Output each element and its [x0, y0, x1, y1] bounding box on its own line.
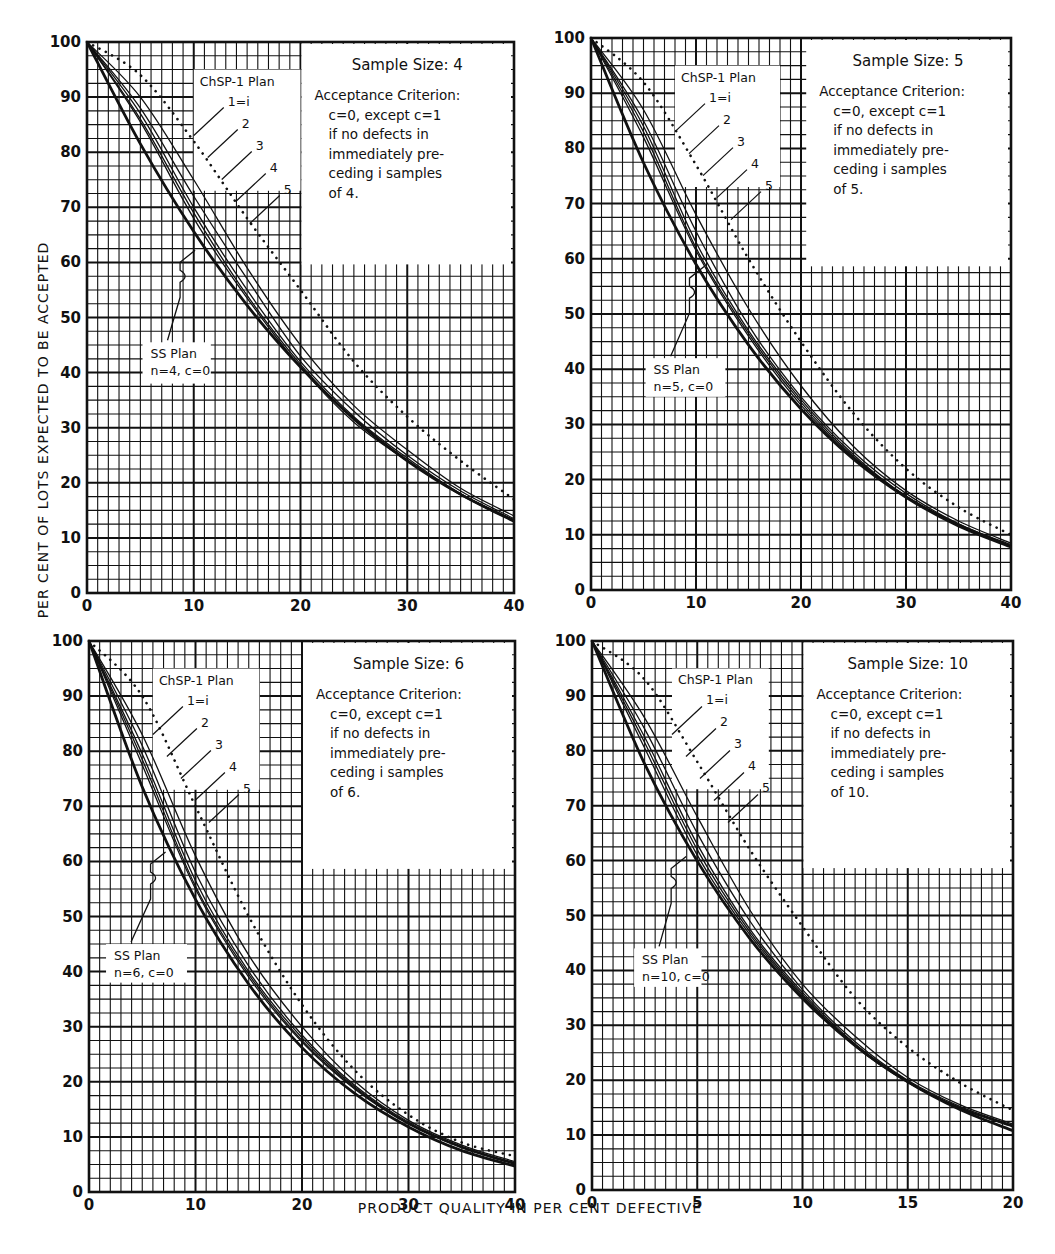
- y-axis-title: PER CENT OF LOTS EXPECTED TO BE ACCEPTED: [35, 242, 51, 619]
- x-tick-label: 40: [1001, 594, 1022, 612]
- criterion-line: ceding i samples: [330, 764, 444, 780]
- y-tick-label: 20: [564, 471, 585, 489]
- y-tick-label: 50: [564, 305, 585, 323]
- leader-line: [731, 192, 761, 220]
- x-tick-label: 30: [397, 597, 418, 615]
- legend-label-3: 3: [737, 134, 745, 149]
- y-tick-label: 10: [60, 529, 81, 547]
- x-tick-label: 10: [686, 594, 707, 612]
- y-tick-label: 0: [71, 584, 81, 602]
- y-tick-label: 20: [565, 1071, 586, 1089]
- sample-size-title: Sample Size: 4: [352, 56, 463, 74]
- y-tick-label: 70: [564, 195, 585, 213]
- legend-label-3: 3: [215, 737, 223, 752]
- y-tick-label: 10: [564, 526, 585, 544]
- legend-title: ChSP-1 Plan: [678, 672, 753, 687]
- ss-plan-label: SS Plan: [114, 948, 160, 963]
- criterion-line: of 5.: [833, 181, 863, 197]
- criterion-line: c=0, except c=1: [329, 107, 442, 123]
- legend-label-5: 5: [284, 182, 292, 197]
- ss-plan-label: SS Plan: [654, 362, 700, 377]
- legend-label-5: 5: [762, 780, 770, 795]
- criterion-line: if no defects in: [831, 725, 931, 741]
- y-tick-label: 30: [565, 1016, 586, 1034]
- criterion-line: c=0, except c=1: [330, 706, 443, 722]
- legend-title: ChSP-1 Plan: [159, 673, 234, 688]
- y-tick-label: 80: [565, 742, 586, 760]
- x-tick-label: 20: [1003, 1194, 1024, 1212]
- chart-panel-2: 0102030405060708090100010203040Sample Si…: [554, 29, 1022, 612]
- y-tick-label: 20: [62, 1073, 83, 1091]
- legend-label-1: 1=i: [187, 693, 209, 708]
- y-tick-label: 40: [564, 360, 585, 378]
- x-axis-title: PRODUCT QUALITY IN PER CENT DEFECTIVE: [358, 1200, 702, 1216]
- y-tick-label: 60: [564, 250, 585, 268]
- y-tick-label: 40: [565, 961, 586, 979]
- y-tick-label: 70: [62, 797, 83, 815]
- criterion-line: of 6.: [330, 784, 360, 800]
- x-tick-label: 10: [183, 597, 204, 615]
- y-tick-label: 90: [62, 687, 83, 705]
- y-tick-label: 40: [62, 963, 83, 981]
- legend-label-4: 4: [748, 758, 756, 773]
- x-tick-label: 0: [586, 594, 596, 612]
- y-tick-label: 100: [52, 632, 83, 650]
- y-tick-label: 90: [564, 84, 585, 102]
- criterion-line: ceding i samples: [833, 161, 947, 177]
- criterion-line: immediately pre-: [330, 745, 446, 761]
- criterion-line: ceding i samples: [831, 764, 945, 780]
- x-tick-label: 20: [791, 594, 812, 612]
- y-tick-label: 20: [60, 474, 81, 492]
- criterion-line: Acceptance Criterion:: [819, 83, 965, 99]
- sample-size-title: Sample Size: 5: [853, 52, 964, 70]
- chart-panel-4: 010203040506070809010005101520Sample Siz…: [555, 632, 1024, 1212]
- x-tick-label: 0: [82, 597, 92, 615]
- ss-plan-label: n=6, c=0: [114, 965, 174, 980]
- x-tick-label: 20: [290, 597, 311, 615]
- leader-line: [250, 196, 280, 224]
- legend-label-3: 3: [734, 736, 742, 751]
- leader-line: [209, 795, 239, 823]
- criterion-line: Acceptance Criterion:: [316, 686, 462, 702]
- x-tick-label: 30: [896, 594, 917, 612]
- x-tick-label: 15: [897, 1194, 918, 1212]
- legend-title: ChSP-1 Plan: [681, 70, 756, 85]
- sample-size-title: Sample Size: 10: [847, 655, 968, 673]
- legend-label-4: 4: [229, 759, 237, 774]
- y-tick-label: 50: [62, 908, 83, 926]
- x-tick-label: 10: [185, 1196, 206, 1214]
- chart-panels: 0102030405060708090100010203040Sample Si…: [50, 29, 1024, 1214]
- y-tick-label: 80: [564, 139, 585, 157]
- legend-label-4: 4: [270, 160, 278, 175]
- y-tick-label: 90: [60, 88, 81, 106]
- ss-plan-label: n=4, c=0: [151, 363, 211, 378]
- y-tick-label: 0: [73, 1183, 83, 1201]
- criterion-line: immediately pre-: [831, 745, 947, 761]
- legend-label-2: 2: [723, 112, 731, 127]
- sample-size-title: Sample Size: 6: [353, 655, 464, 673]
- criterion-line: if no defects in: [329, 126, 429, 142]
- y-tick-label: 30: [564, 415, 585, 433]
- ss-plan-label: SS Plan: [151, 346, 197, 361]
- y-tick-label: 60: [62, 852, 83, 870]
- y-tick-label: 60: [60, 253, 81, 271]
- y-tick-label: 100: [554, 29, 585, 47]
- y-tick-label: 30: [62, 1018, 83, 1036]
- legend-label-4: 4: [751, 156, 759, 171]
- criterion-line: of 10.: [831, 784, 870, 800]
- criterion-line: of 4.: [329, 185, 359, 201]
- y-tick-label: 10: [565, 1126, 586, 1144]
- x-tick-label: 10: [792, 1194, 813, 1212]
- legend-label-2: 2: [720, 714, 728, 729]
- legend-label-1: 1=i: [709, 90, 731, 105]
- legend-label-5: 5: [765, 178, 773, 193]
- legend-label-1: 1=i: [706, 692, 728, 707]
- y-tick-label: 50: [60, 309, 81, 327]
- legend-label-2: 2: [242, 116, 250, 131]
- y-tick-label: 0: [575, 581, 585, 599]
- ss-plan-label: SS Plan: [642, 952, 688, 967]
- ss-brace-leader: [671, 266, 705, 356]
- y-tick-label: 80: [62, 742, 83, 760]
- criterion-line: immediately pre-: [833, 142, 949, 158]
- y-tick-label: 80: [60, 143, 81, 161]
